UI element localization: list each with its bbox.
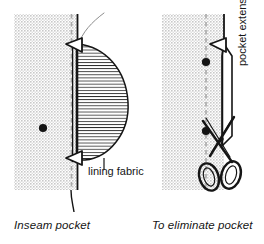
pocket-bag-hatching [70,40,134,166]
label-pocket-extension: pocket extension [236,0,248,66]
caption-inseam-pocket: Inseam pocket [14,219,90,231]
pocket-extension-strip [222,44,232,146]
panel-inseam-pocket [14,13,134,212]
garment-panel-left [14,14,78,190]
caption-to-eliminate-pocket: To eliminate pocket [152,219,253,231]
label-lining-fabric: lining fabric [88,165,144,177]
garment-panel-right [162,14,224,190]
panel-eliminate-pocket [162,14,244,193]
dot-marker-left [39,124,47,132]
dot-marker-upper-right [202,58,210,66]
sewing-diagram-figure [0,0,264,244]
leader-line-caption-left [71,190,74,212]
